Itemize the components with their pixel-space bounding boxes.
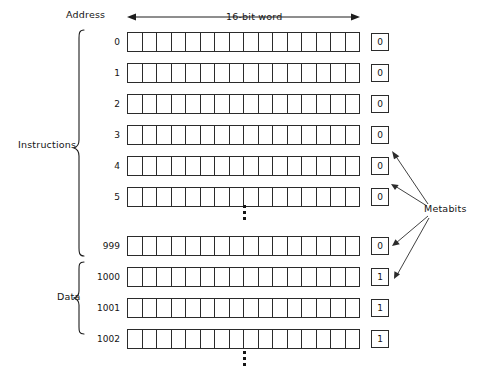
bit-cell[interactable] [331, 299, 346, 317]
bit-cell[interactable] [302, 126, 317, 144]
bit-cell[interactable] [302, 157, 317, 175]
bit-cell[interactable] [346, 33, 360, 51]
bit-cell[interactable] [302, 299, 317, 317]
bit-cell[interactable] [186, 64, 201, 82]
bit-cell[interactable] [302, 237, 317, 255]
bit-cell[interactable] [273, 126, 288, 144]
bit-cell[interactable] [230, 237, 245, 255]
bit-cell[interactable] [201, 33, 216, 51]
bit-cell[interactable] [244, 95, 259, 113]
bit-cell[interactable] [259, 188, 274, 206]
row-word-cells[interactable] [127, 298, 360, 318]
bit-cell[interactable] [244, 126, 259, 144]
row-metabit[interactable]: 1 [371, 330, 389, 348]
bit-cell[interactable] [172, 95, 187, 113]
bit-cell[interactable] [215, 330, 230, 348]
row-word-cells[interactable] [127, 32, 360, 52]
bit-cell[interactable] [172, 126, 187, 144]
bit-cell[interactable] [317, 64, 332, 82]
bit-cell[interactable] [273, 33, 288, 51]
bit-cell[interactable] [346, 157, 360, 175]
bit-cell[interactable] [128, 95, 143, 113]
bit-cell[interactable] [186, 330, 201, 348]
bit-cell[interactable] [244, 33, 259, 51]
bit-cell[interactable] [346, 95, 360, 113]
bit-cell[interactable] [143, 157, 158, 175]
row-metabit[interactable]: 0 [371, 95, 389, 113]
bit-cell[interactable] [157, 95, 172, 113]
bit-cell[interactable] [128, 157, 143, 175]
row-word-cells[interactable] [127, 329, 360, 349]
bit-cell[interactable] [143, 188, 158, 206]
bit-cell[interactable] [244, 64, 259, 82]
bit-cell[interactable] [273, 299, 288, 317]
bit-cell[interactable] [346, 237, 360, 255]
bit-cell[interactable] [230, 299, 245, 317]
bit-cell[interactable] [143, 95, 158, 113]
bit-cell[interactable] [288, 268, 303, 286]
bit-cell[interactable] [186, 268, 201, 286]
bit-cell[interactable] [346, 188, 360, 206]
bit-cell[interactable] [273, 237, 288, 255]
bit-cell[interactable] [273, 157, 288, 175]
bit-cell[interactable] [143, 268, 158, 286]
bit-cell[interactable] [259, 33, 274, 51]
bit-cell[interactable] [331, 33, 346, 51]
bit-cell[interactable] [215, 299, 230, 317]
bit-cell[interactable] [331, 237, 346, 255]
bit-cell[interactable] [273, 188, 288, 206]
bit-cell[interactable] [186, 237, 201, 255]
bit-cell[interactable] [128, 237, 143, 255]
bit-cell[interactable] [172, 268, 187, 286]
bit-cell[interactable] [302, 268, 317, 286]
bit-cell[interactable] [128, 33, 143, 51]
bit-cell[interactable] [157, 237, 172, 255]
bit-cell[interactable] [215, 64, 230, 82]
bit-cell[interactable] [317, 299, 332, 317]
row-metabit[interactable]: 0 [371, 64, 389, 82]
bit-cell[interactable] [128, 330, 143, 348]
bit-cell[interactable] [201, 299, 216, 317]
bit-cell[interactable] [172, 299, 187, 317]
bit-cell[interactable] [317, 268, 332, 286]
bit-cell[interactable] [230, 33, 245, 51]
bit-cell[interactable] [201, 237, 216, 255]
bit-cell[interactable] [172, 64, 187, 82]
bit-cell[interactable] [230, 330, 245, 348]
bit-cell[interactable] [157, 157, 172, 175]
bit-cell[interactable] [186, 188, 201, 206]
bit-cell[interactable] [259, 126, 274, 144]
bit-cell[interactable] [201, 268, 216, 286]
bit-cell[interactable] [230, 95, 245, 113]
bit-cell[interactable] [201, 157, 216, 175]
bit-cell[interactable] [143, 126, 158, 144]
bit-cell[interactable] [186, 126, 201, 144]
row-word-cells[interactable] [127, 125, 360, 145]
bit-cell[interactable] [346, 268, 360, 286]
bit-cell[interactable] [288, 95, 303, 113]
bit-cell[interactable] [128, 126, 143, 144]
bit-cell[interactable] [244, 330, 259, 348]
bit-cell[interactable] [346, 330, 360, 348]
bit-cell[interactable] [172, 157, 187, 175]
bit-cell[interactable] [215, 268, 230, 286]
bit-cell[interactable] [143, 64, 158, 82]
bit-cell[interactable] [201, 126, 216, 144]
row-metabit[interactable]: 0 [371, 126, 389, 144]
bit-cell[interactable] [128, 299, 143, 317]
row-word-cells[interactable] [127, 156, 360, 176]
bit-cell[interactable] [186, 33, 201, 51]
bit-cell[interactable] [157, 33, 172, 51]
bit-cell[interactable] [172, 188, 187, 206]
bit-cell[interactable] [273, 64, 288, 82]
bit-cell[interactable] [230, 157, 245, 175]
row-word-cells[interactable] [127, 94, 360, 114]
bit-cell[interactable] [302, 95, 317, 113]
bit-cell[interactable] [302, 64, 317, 82]
bit-cell[interactable] [157, 330, 172, 348]
bit-cell[interactable] [259, 95, 274, 113]
bit-cell[interactable] [273, 330, 288, 348]
bit-cell[interactable] [201, 64, 216, 82]
bit-cell[interactable] [317, 95, 332, 113]
bit-cell[interactable] [288, 126, 303, 144]
